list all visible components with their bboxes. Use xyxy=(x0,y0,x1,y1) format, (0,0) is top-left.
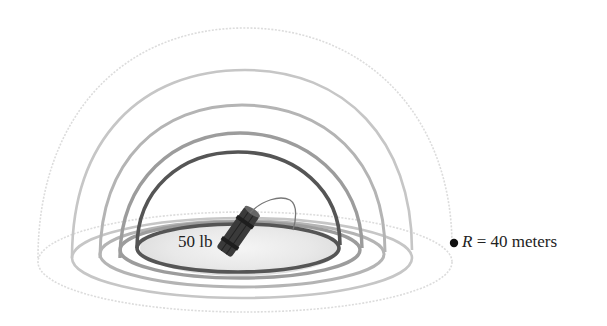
radius-variable: R xyxy=(462,232,472,251)
equals-sign: = xyxy=(477,232,487,251)
charge-weight: 50 lb xyxy=(178,232,212,251)
blast-diagram xyxy=(0,0,607,326)
point-dot-icon xyxy=(450,239,458,247)
charge-label: 50 lb xyxy=(178,232,212,252)
radius-value: 40 meters xyxy=(490,232,557,251)
distance-label: R = 40 meters xyxy=(462,232,557,252)
